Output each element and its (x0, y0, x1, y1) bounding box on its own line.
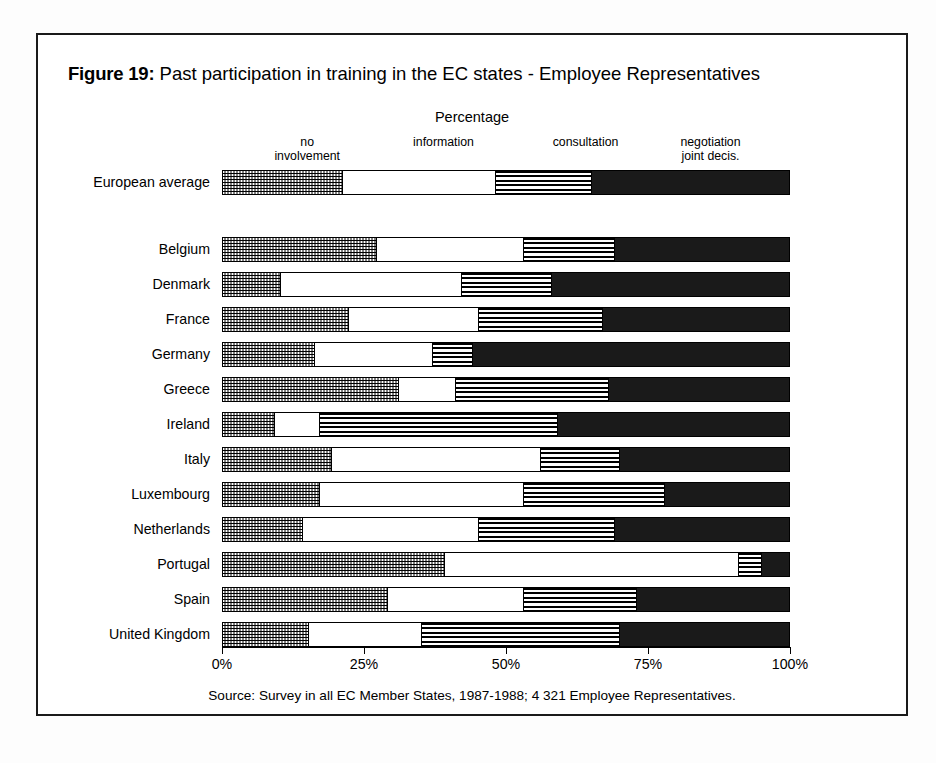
bar-segment-hlines (421, 623, 619, 646)
bar-category-label: Germany (38, 342, 210, 367)
stacked-bar (222, 517, 790, 542)
bar-row: Greece (38, 377, 906, 402)
bar-segment-hlines (478, 308, 603, 331)
bar-row: Italy (38, 447, 906, 472)
bar-segment-black (608, 378, 789, 401)
stacked-bar (222, 447, 790, 472)
x-axis-tick-label: 25% (324, 656, 404, 672)
bar-segment-white (280, 273, 461, 296)
bar-category-label: Ireland (38, 412, 210, 437)
bar-segment-dots (223, 308, 348, 331)
bar-segment-hlines (461, 273, 552, 296)
bar-segment-black (591, 171, 789, 194)
bar-segment-hlines (540, 448, 619, 471)
bar-segment-dots (223, 588, 387, 611)
x-axis-tick-label: 50% (466, 656, 546, 672)
bar-segment-hlines (495, 171, 591, 194)
bar-segment-white (398, 378, 455, 401)
bar-category-label: Italy (38, 447, 210, 472)
bar-category-label: European average (38, 170, 210, 195)
bar-segment-hlines (523, 483, 665, 506)
bar-row: Ireland (38, 412, 906, 437)
stacked-bar (222, 272, 790, 297)
segment-header-dots: no involvement (237, 136, 377, 163)
bar-segment-white (314, 343, 433, 366)
segment-header-white: information (374, 136, 514, 150)
bar-category-label: France (38, 307, 210, 332)
bar-segment-white (444, 553, 738, 576)
bar-segment-dots (223, 343, 314, 366)
bar-segment-black (636, 588, 789, 611)
figure-frame: Figure 19: Past participation in trainin… (36, 33, 908, 716)
bar-segment-black (761, 553, 789, 576)
stacked-bar (222, 412, 790, 437)
bar-segment-hlines (455, 378, 608, 401)
bar-segment-dots (223, 553, 444, 576)
x-axis-tick (648, 647, 649, 654)
bar-segment-black (614, 518, 789, 541)
bar-segment-white (308, 623, 421, 646)
bar-segment-black (664, 483, 789, 506)
bar-segment-white (387, 588, 523, 611)
x-axis-tick (790, 647, 791, 654)
stacked-bar (222, 552, 790, 577)
stacked-bar (222, 377, 790, 402)
bar-segment-hlines (738, 553, 761, 576)
chart-axis-title: Percentage (38, 109, 906, 125)
x-axis-tick (506, 647, 507, 654)
stacked-bar (222, 587, 790, 612)
stacked-bar (222, 342, 790, 367)
stacked-bar (222, 170, 790, 195)
bar-row: Luxembourg (38, 482, 906, 507)
bar-segment-dots (223, 413, 274, 436)
page-canvas: Figure 19: Past participation in trainin… (0, 0, 936, 763)
bar-segment-white (342, 171, 495, 194)
source-note: Source: Survey in all EC Member States, … (38, 688, 906, 703)
bar-segment-white (274, 413, 319, 436)
bar-segment-white (348, 308, 478, 331)
stacked-bar (222, 622, 790, 647)
x-axis-tick-label: 0% (182, 656, 262, 672)
bar-row: Netherlands (38, 517, 906, 542)
bar-category-label: United Kingdom (38, 622, 210, 647)
bar-row: France (38, 307, 906, 332)
bar-category-label: Spain (38, 587, 210, 612)
bar-segment-dots (223, 273, 280, 296)
bar-category-label: Belgium (38, 237, 210, 262)
bar-category-label: Greece (38, 377, 210, 402)
bar-segment-white (302, 518, 477, 541)
bar-segment-dots (223, 378, 398, 401)
bar-segment-hlines (523, 238, 614, 261)
bar-segment-white (319, 483, 523, 506)
bar-segment-black (602, 308, 789, 331)
bar-segment-hlines (432, 343, 472, 366)
bar-row: Spain (38, 587, 906, 612)
bar-segment-dots (223, 518, 302, 541)
bar-row: European average (38, 170, 906, 195)
stacked-bar (222, 307, 790, 332)
stacked-bar (222, 482, 790, 507)
bar-row: Belgium (38, 237, 906, 262)
bar-category-label: Netherlands (38, 517, 210, 542)
bar-category-label: Portugal (38, 552, 210, 577)
bar-segment-dots (223, 238, 376, 261)
stacked-bar (222, 237, 790, 262)
bar-segment-white (331, 448, 540, 471)
stacked-bar-chart: Percentage no involvementinformationcons… (38, 35, 906, 714)
bar-segment-hlines (319, 413, 557, 436)
bar-row: Germany (38, 342, 906, 367)
bar-row: Denmark (38, 272, 906, 297)
bar-segment-dots (223, 623, 308, 646)
bar-segment-black (619, 623, 789, 646)
bar-category-label: Luxembourg (38, 482, 210, 507)
bar-segment-white (376, 238, 523, 261)
bar-segment-dots (223, 448, 331, 471)
bar-row: United Kingdom (38, 622, 906, 647)
bar-segment-dots (223, 483, 319, 506)
segment-header-black: negotiation joint decis. (640, 136, 780, 163)
x-axis-tick-label: 100% (750, 656, 830, 672)
bar-row: Portugal (38, 552, 906, 577)
bar-segment-hlines (523, 588, 636, 611)
bar-segment-black (619, 448, 789, 471)
segment-header-hlines: consultation (516, 136, 656, 150)
